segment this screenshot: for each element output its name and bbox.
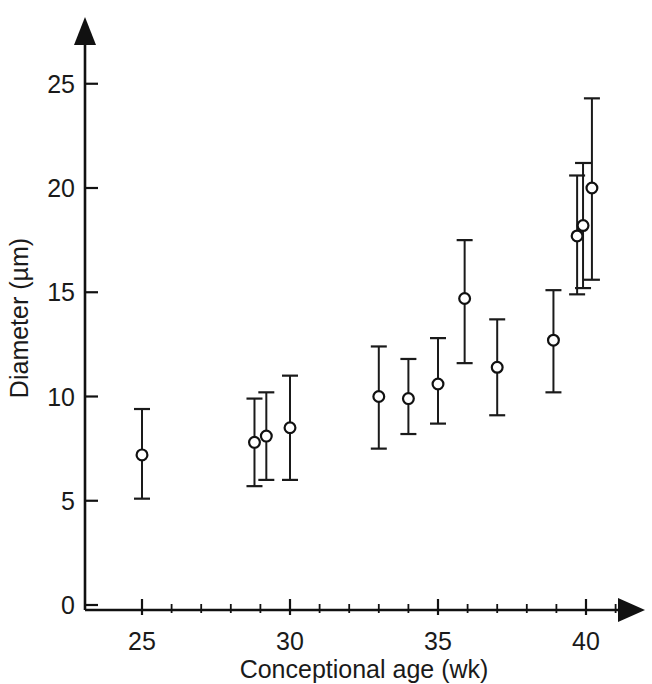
data-point-4: [282, 376, 298, 480]
data-point-marker: [373, 391, 384, 402]
data-point-3: [258, 392, 274, 480]
y-tick-label-0: 0: [61, 591, 75, 619]
data-point-2: [246, 399, 262, 487]
y-axis-arrowhead: [74, 17, 96, 45]
chart-figure: 051015202525303540 Diameter (µm) Concept…: [0, 0, 652, 684]
data-point-marker: [572, 231, 583, 242]
axis-ticks: [85, 84, 616, 615]
data-point-9: [489, 319, 505, 415]
data-point-marker: [587, 183, 598, 194]
y-tick-label-25: 25: [47, 70, 75, 98]
scatter-plot-with-error-bars: 051015202525303540 Diameter (µm) Concept…: [0, 0, 652, 684]
data-point-6: [400, 359, 416, 434]
data-point-marker: [548, 335, 559, 346]
axis-tick-labels: 051015202525303540: [47, 70, 600, 655]
data-points: [134, 98, 600, 498]
y-tick-label-20: 20: [47, 174, 75, 202]
data-point-marker: [578, 220, 589, 231]
data-point-5: [371, 346, 387, 448]
data-point-marker: [137, 449, 148, 460]
data-point-marker: [492, 362, 503, 373]
data-point-8: [457, 240, 473, 363]
x-tick-label-25: 25: [128, 627, 156, 655]
data-point-marker: [459, 293, 470, 304]
y-tick-label-10: 10: [47, 383, 75, 411]
data-point-marker: [249, 437, 260, 448]
data-point-marker: [285, 422, 296, 433]
axes: [74, 17, 645, 622]
data-point-1: [134, 409, 150, 499]
y-axis-title: Diameter (µm): [5, 238, 33, 398]
data-point-marker: [261, 431, 272, 442]
x-tick-label-30: 30: [276, 627, 304, 655]
x-tick-label-35: 35: [424, 627, 452, 655]
data-point-marker: [403, 393, 414, 404]
data-point-7: [430, 338, 446, 423]
data-point-13: [584, 98, 600, 279]
x-axis-arrowhead: [618, 598, 645, 622]
data-point-marker: [433, 379, 444, 390]
y-tick-label-5: 5: [61, 487, 75, 515]
x-axis-title: Conceptional age (wk): [240, 655, 489, 683]
data-point-10: [545, 290, 561, 392]
x-tick-label-40: 40: [572, 627, 600, 655]
y-tick-label-15: 15: [47, 278, 75, 306]
